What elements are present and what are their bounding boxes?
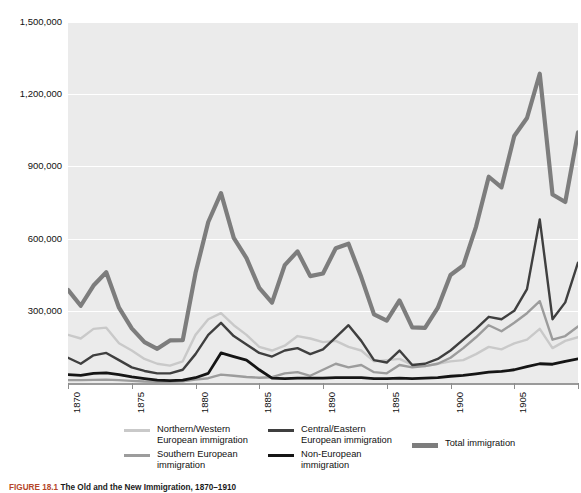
line-series-group <box>68 22 578 383</box>
legend-swatch <box>124 454 150 457</box>
legend-swatch <box>124 429 150 432</box>
figure-caption: FIGURE 18.1 The Old and the New Immigrat… <box>9 483 569 492</box>
legend-item[interactable]: Total immigration <box>412 438 515 449</box>
legend-item[interactable]: Central/Eastern European immigration <box>268 424 392 445</box>
legend-swatch <box>268 454 294 457</box>
legend-label: Non-European immigration <box>301 449 361 470</box>
x-tick-mark <box>578 383 579 389</box>
legend-swatch <box>268 429 294 432</box>
legend-item[interactable]: Non-European immigration <box>268 449 361 470</box>
y-tick-label: 1,500,000 <box>0 17 62 27</box>
x-tick-label: 1875 <box>136 392 146 413</box>
y-tick-label: 300,000 <box>0 306 62 316</box>
x-tick-label: 1870 <box>72 392 82 413</box>
caption-number: FIGURE 18.1 <box>9 483 58 492</box>
y-tick-label: 1,200,000 <box>0 89 62 99</box>
x-tick-label: 1895 <box>391 392 401 413</box>
caption-title: The Old and the New Immigration, 1870–19… <box>60 483 236 492</box>
figure-container: 1,500,0001,200,000900,000600,000300,000 … <box>0 0 581 493</box>
x-tick-mark <box>323 383 324 389</box>
legend-label: Central/Eastern European immigration <box>301 424 392 445</box>
legend-swatch <box>412 443 438 448</box>
legend-item[interactable]: Southern European immigration <box>124 449 238 470</box>
x-tick-label: 1905 <box>518 392 528 413</box>
legend-label: Total immigration <box>445 438 515 449</box>
legend-label: Northern/Western European immigration <box>157 424 248 445</box>
legend-item[interactable]: Northern/Western European immigration <box>124 424 248 445</box>
legend: Northern/Western European immigrationSou… <box>0 424 581 472</box>
x-tick-mark <box>68 383 69 389</box>
x-tick-label: 1880 <box>200 392 210 413</box>
x-tick-label: 1890 <box>327 392 337 413</box>
x-tick-label: 1900 <box>455 392 465 413</box>
legend-label: Southern European immigration <box>157 449 238 470</box>
x-tick-mark <box>451 383 452 389</box>
y-axis: 1,500,0001,200,000900,000600,000300,000 <box>0 0 62 400</box>
x-tick-mark <box>259 383 260 389</box>
series-line <box>68 353 578 381</box>
x-tick-label: 1885 <box>263 392 273 413</box>
x-tick-mark <box>514 383 515 389</box>
x-tick-mark <box>132 383 133 389</box>
x-tick-mark <box>196 383 197 389</box>
y-tick-label: 900,000 <box>0 161 62 171</box>
x-tick-mark <box>387 383 388 389</box>
y-tick-label: 600,000 <box>0 234 62 244</box>
series-line <box>68 74 578 349</box>
